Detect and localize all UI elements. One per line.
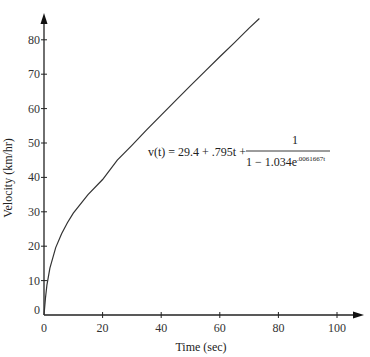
x-tick-label: 60 [214,321,226,335]
x-tick-label: 80 [272,321,284,335]
formula-numerator: 1 [292,133,298,147]
x-tick-label: 0 [41,321,47,335]
y-tick-label: 0 [34,303,40,317]
formula-lhs: v(t) = 29.4 + .795t + [148,145,246,159]
x-axis-arrow-icon [353,312,364,319]
y-tick-label: 80 [28,33,40,47]
y-tick-label: 60 [28,102,40,116]
formula-denominator: 1 − 1.034e.0061667t [246,155,325,169]
denominator-base: 1 − 1.034e [246,155,297,169]
y-tick-label: 40 [28,170,40,184]
x-tick-label: 20 [97,321,109,335]
y-tick-label: 30 [28,205,40,219]
x-axis-title: Time (sec) [175,340,226,354]
y-tick-label: 50 [28,136,40,150]
x-tick-label: 100 [328,321,346,335]
velocity-curve [44,19,259,316]
y-tick-label: 20 [28,239,40,253]
velocity-chart: 01020304050607080 020406080100 Time (sec… [0,0,370,357]
y-tick-label: 70 [28,67,40,81]
denominator-exponent: .0061667t [297,155,325,163]
y-axis-title: Velocity (km/hr) [1,138,15,218]
y-axis-arrow-icon [41,13,48,24]
y-tick-label: 10 [28,274,40,288]
x-tick-label: 40 [155,321,167,335]
formula-annotation: v(t) = 29.4 + .795t + 1 1 − 1.034e.00616… [148,133,330,169]
